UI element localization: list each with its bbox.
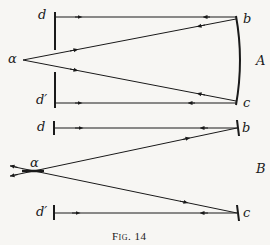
concave-mirror (236, 16, 240, 105)
label-b-b: b (242, 121, 250, 134)
label-c-b: c (243, 206, 250, 219)
part-a-diagram (23, 12, 240, 108)
label-part-a: A (256, 54, 265, 67)
label-alpha-b: α (30, 156, 39, 169)
label-d-prime-b: d′ (36, 205, 47, 218)
figure-caption: Fig. 14 (112, 231, 147, 242)
label-c-a: c (243, 96, 250, 109)
label-d-prime-a: d′ (36, 93, 47, 106)
label-d-a: d (38, 8, 46, 21)
mirror-b (237, 120, 239, 136)
label-alpha-a: α (8, 52, 17, 65)
figure-14: d d′ α b c A d d′ α b c B Fig. 14 (0, 0, 270, 245)
label-b-a: b (243, 12, 251, 25)
label-d-b: d (37, 120, 45, 133)
label-part-b: B (256, 162, 266, 175)
mirror-c (237, 205, 239, 221)
